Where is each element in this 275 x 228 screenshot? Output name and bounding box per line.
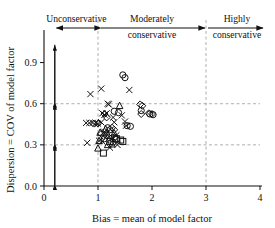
- y-tick-label-3: 0.9: [25, 57, 38, 68]
- x-axis-label: Bias = mean of model factor: [92, 213, 212, 224]
- x-tick-label-0: 0: [42, 192, 47, 203]
- x-tick-label-2: 2: [150, 192, 155, 203]
- scatter-plot: UnconservativeModeratelyconservativeHigh…: [0, 0, 275, 228]
- y-tick-label-1: 0.3: [25, 139, 38, 150]
- chart-figure: UnconservativeModeratelyconservativeHigh…: [0, 0, 275, 228]
- data-point-cross: [98, 86, 104, 92]
- y-axis-label: Dispersion = COV of model factor: [5, 47, 16, 193]
- data-point-cross: [83, 120, 89, 126]
- y-tick-label-0: 0.0: [25, 181, 38, 192]
- zone-label-unconservative: Unconservative: [46, 13, 106, 24]
- data-point-triangle: [116, 102, 123, 108]
- x-tick-label-3: 3: [204, 192, 209, 203]
- x-tick-label-1: 1: [96, 192, 101, 203]
- zone-label-moderately: Moderately: [130, 13, 174, 24]
- zone-label-highly: Highly: [224, 13, 251, 24]
- y-tick-label-2: 0.6: [25, 98, 38, 109]
- data-point-cross: [126, 87, 132, 93]
- x-tick-label-4: 4: [258, 192, 263, 203]
- data-point-cross: [84, 140, 90, 146]
- zone-label-highly-2: conservative: [213, 29, 261, 40]
- data-point-circle: [111, 108, 117, 114]
- data-point-cross: [87, 91, 93, 97]
- zone-label-moderately-2: conservative: [128, 29, 176, 40]
